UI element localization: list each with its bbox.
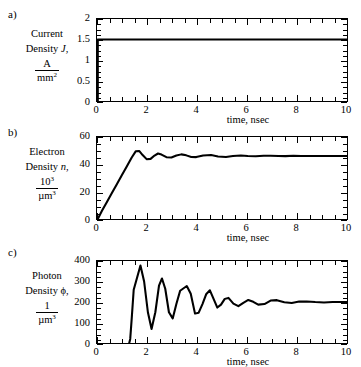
panel-a-plot-frame (96, 18, 348, 102)
panel-b-curve-svg (97, 137, 347, 219)
panel-a-letter: a) (8, 8, 17, 20)
panel-c-curve-svg (97, 261, 347, 343)
panel-b-xlabel-0: 0 (83, 223, 109, 233)
panel-a-xlabel-10: 10 (333, 105, 359, 115)
panel-a-plot-area (97, 19, 347, 101)
panel-c-ylabel-100: 100 (56, 318, 90, 328)
panel-c-curve (129, 265, 347, 343)
panel-b-letter: b) (8, 126, 17, 138)
panel-a: a) Current Density J, A mm2 (0, 0, 361, 122)
panel-c: c) Photon Density ϕ, 1 µm3 (0, 238, 361, 360)
panel-a-xlabel-2: 2 (133, 105, 159, 115)
panel-c-unit-numerator: 1 (36, 299, 58, 313)
panel-b-ylabel-20: 20 (56, 187, 90, 197)
panel-c-xtitle: time, nsec (196, 356, 300, 367)
panel-a-curve-svg (97, 19, 347, 101)
panel-b-unit-numerator: 103 (36, 175, 58, 189)
panel-a-ylabel-0p5: 0.5 (56, 76, 90, 86)
panel-b-xlabel-2: 2 (133, 223, 159, 233)
panel-b-plot-frame (96, 136, 348, 220)
panel-b-curve (98, 151, 347, 219)
panel-b-ylabel-60: 60 (56, 131, 90, 141)
panel-b-plot-area (97, 137, 347, 219)
panel-c-ylabel-300: 300 (56, 276, 90, 286)
panel-c-letter: c) (8, 246, 17, 258)
panel-b: b) Electron Density n, 103 µm3 (0, 118, 361, 240)
panel-c-unit-fraction: 1 µm3 (36, 299, 58, 326)
panel-c-ylabel-400: 400 (56, 255, 90, 265)
panel-a-ylabel-1: 1 (56, 55, 90, 65)
panel-a-ylabel-1p5: 1.5 (56, 34, 90, 44)
panel-a-ylabel-2: 2 (56, 13, 90, 23)
panel-a-xlabel-0: 0 (83, 105, 109, 115)
panel-c-ylabel-200: 200 (56, 297, 90, 307)
panel-a-curve (98, 40, 347, 102)
panel-b-label-line-1: Electron (4, 144, 90, 159)
panel-b-unit-fraction: 103 µm3 (36, 175, 58, 202)
panel-c-plot-frame (96, 260, 348, 344)
panel-b-xlabel-10: 10 (333, 223, 359, 233)
panel-c-xlabel-10: 10 (333, 347, 359, 357)
panel-c-xlabel-0: 0 (83, 347, 109, 357)
panel-c-xlabel-2: 2 (133, 347, 159, 357)
panel-b-unit-denominator: µm3 (36, 189, 58, 202)
panel-c-plot-area (97, 261, 347, 343)
panel-b-ylabel-40: 40 (56, 159, 90, 169)
panel-c-unit-denominator: µm3 (36, 313, 58, 326)
